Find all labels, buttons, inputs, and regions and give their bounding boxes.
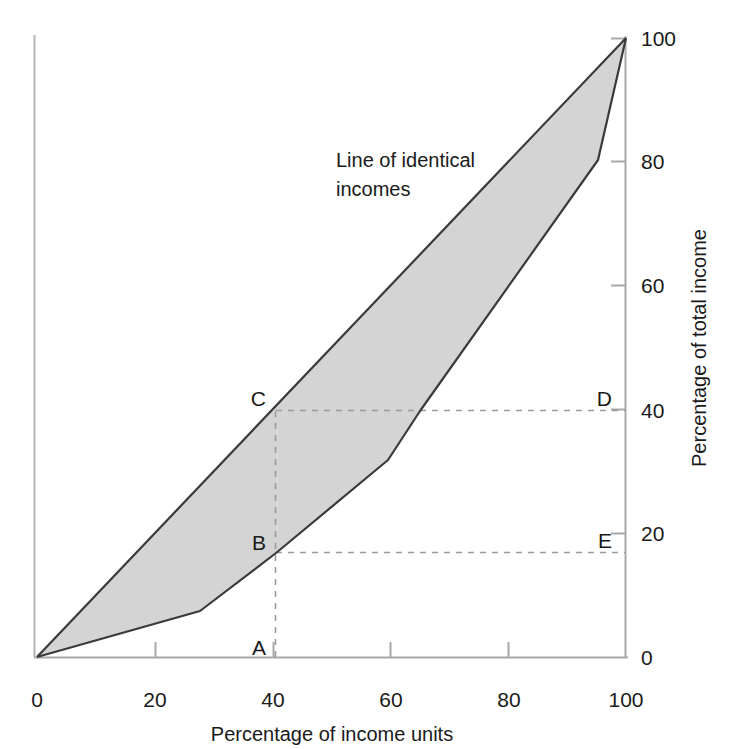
point-label-b: B <box>252 531 266 554</box>
y-tick-label-20: 20 <box>641 522 664 545</box>
y-tick-label-100: 100 <box>641 27 676 50</box>
x-tick-label-0: 0 <box>31 688 43 711</box>
y-tick-label-0: 0 <box>641 646 653 669</box>
x-tick-label-80: 80 <box>497 688 520 711</box>
line-of-identical-incomes <box>37 38 626 657</box>
identical-incomes-annotation-line1: Line of identical <box>336 149 475 171</box>
y-tick-label-60: 60 <box>641 274 664 297</box>
lorenz-curve-figure: 0 20 40 60 80 100 0 20 40 60 80 100 A B … <box>0 0 735 749</box>
x-axis-title: Percentage of income units <box>211 723 453 745</box>
x-tick-label-100: 100 <box>608 688 643 711</box>
identical-incomes-annotation-line2: incomes <box>336 178 410 200</box>
x-tick-label-60: 60 <box>379 688 402 711</box>
y-tick-label-80: 80 <box>641 150 664 173</box>
y-tick-label-40: 40 <box>641 399 664 422</box>
point-label-e: E <box>598 529 612 552</box>
point-label-a: A <box>252 636 266 659</box>
y-axis-title: Percentage of total income <box>688 229 710 467</box>
chart-canvas: 0 20 40 60 80 100 0 20 40 60 80 100 A B … <box>0 0 735 749</box>
x-tick-label-40: 40 <box>261 688 284 711</box>
x-tick-label-20: 20 <box>143 688 166 711</box>
point-label-d: D <box>597 387 612 410</box>
point-label-c: C <box>251 387 266 410</box>
